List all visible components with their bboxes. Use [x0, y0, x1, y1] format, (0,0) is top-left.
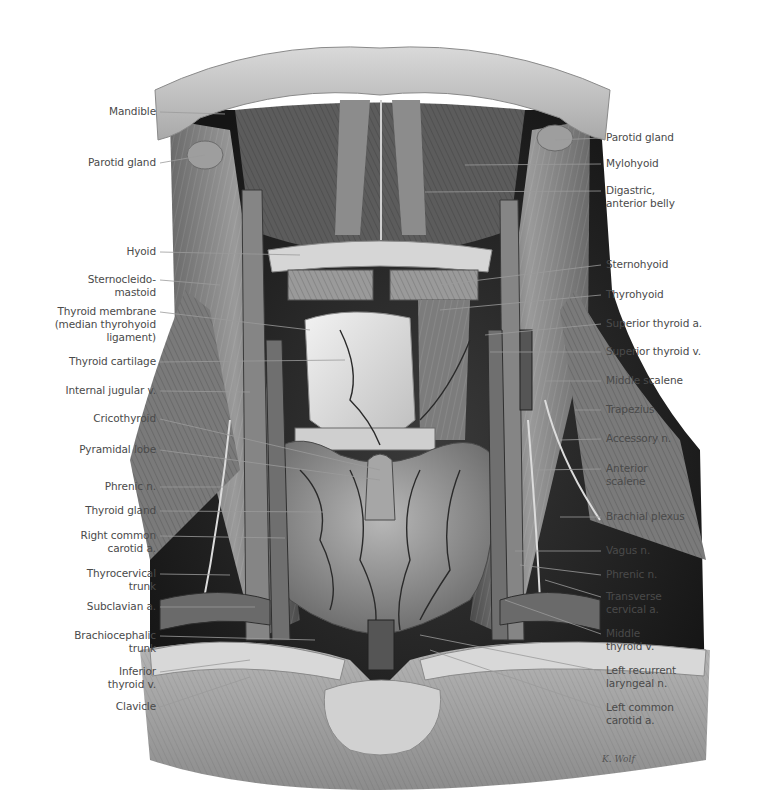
label-superior-thyroid-a: Superior thyroid a. — [606, 317, 702, 330]
label-parotid-gland-right: Parotid gland — [88, 156, 156, 169]
label-parotid-gland-left: Parotid gland — [606, 131, 674, 144]
label-clavicle: Clavicle — [116, 700, 156, 713]
anterior-scalene-left-shape — [520, 330, 532, 410]
label-thyroid-gland: Thyroid gland — [85, 504, 156, 517]
label-thyroid-cartilage: Thyroid cartilage — [69, 355, 156, 368]
label-left-recurrent-laryngeal-n: Left recurrent laryngeal n. — [606, 664, 676, 690]
label-internal-jugular-v: Internal jugular v. — [65, 384, 156, 397]
label-superior-thyroid-v: Superior thyroid v. — [606, 345, 701, 358]
label-right-common-carotid-a: Right common carotid a. — [80, 529, 156, 555]
label-inferior-thyroid-v: Inferior thyroid v. — [108, 665, 156, 691]
trachea-shape — [368, 620, 394, 670]
label-middle-scalene: Middle scalene — [606, 374, 683, 387]
label-anterior-scalene: Anterior scalene — [606, 462, 648, 488]
label-thyroid-membrane: Thyroid membrane (median thyrohyoid liga… — [55, 305, 156, 344]
label-vagus-n: Vagus n. — [606, 544, 650, 557]
label-left-common-carotid-a: Left common carotid a. — [606, 701, 674, 727]
label-hyoid: Hyoid — [126, 245, 156, 258]
thyroid-cartilage-shape — [305, 312, 415, 446]
label-digastric-anterior-belly: Digastric, anterior belly — [606, 184, 675, 210]
label-thyrocervical-trunk: Thyrocervical trunk — [87, 567, 156, 593]
label-pyramidal-lobe: Pyramidal lobe — [79, 443, 156, 456]
parotid-left-shape — [537, 125, 573, 151]
artist-signature: K. Wolf — [601, 754, 636, 764]
label-middle-thyroid-v: Middle thyroid v. — [606, 627, 654, 653]
label-brachial-plexus: Brachial plexus — [606, 510, 685, 523]
label-sternohyoid: Sternohyoid — [606, 258, 668, 271]
label-subclavian-a: Subclavian a. — [87, 600, 156, 613]
label-phrenic-n-right: Phrenic n. — [105, 480, 156, 493]
label-transverse-cervical-a: Transverse cervical a. — [606, 590, 662, 616]
anatomy-figure: K. Wolf MandibleParotid glandHyoidSterno… — [0, 0, 761, 801]
pyramidal-lobe-shape — [365, 454, 395, 520]
label-cricothyroid: Cricothyroid — [93, 412, 156, 425]
label-phrenic-n-left: Phrenic n. — [606, 568, 657, 581]
label-accessory-n: Accessory n. — [606, 432, 671, 445]
label-mylohyoid: Mylohyoid — [606, 157, 659, 170]
label-mandible: Mandible — [109, 105, 156, 118]
label-brachiocephalic-trunk: Brachiocephalic trunk — [74, 629, 156, 655]
label-sternocleidomastoid: Sternocleido- mastoid — [88, 273, 156, 299]
label-thyrohyoid: Thyrohyoid — [606, 288, 664, 301]
label-trapezius: Trapezius — [606, 403, 654, 416]
